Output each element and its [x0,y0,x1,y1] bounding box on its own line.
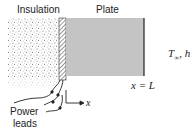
power-leads-label-line2: leads [13,119,37,129]
insulation-label: Insulation [17,5,60,15]
boundary-label: x = L [131,80,155,90]
ambient-conditions-label: T∞, h [168,48,190,63]
insulation-region [8,18,59,88]
x-axis-arrow [66,90,84,105]
power-leads-label-line1: Power [10,107,38,117]
plate-label: Plate [96,5,119,15]
heat-transfer-coeff-symbol: , h [179,47,190,59]
plate-region [66,18,144,76]
axis-label: x [86,98,90,108]
heater-strip [59,18,66,80]
